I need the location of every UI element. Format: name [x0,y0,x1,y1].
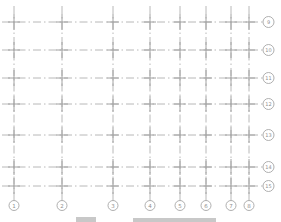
drawing-canvas: 123456789101112131415 [0,0,281,222]
axis-label-row: 15 [265,183,271,189]
axis-label-row: 14 [265,164,271,170]
axis-label-column: 5 [178,203,182,209]
axis-label-column: 8 [247,203,251,209]
axis-label-column: 3 [111,203,115,209]
axis-label-row: 13 [265,132,271,138]
drawing-svg: 123456789101112131415 [0,0,281,222]
axis-label-column: 7 [229,203,233,209]
axis-label-column: 2 [60,203,64,209]
caption-fragment [133,218,216,222]
axis-label-column: 6 [204,203,208,209]
axis-label-column: 1 [12,203,16,209]
axis-label-column: 4 [148,203,152,209]
axis-label-row: 9 [267,19,270,25]
axis-label-row: 11 [265,75,271,81]
caption-fragment [76,217,96,222]
axis-label-row: 12 [265,101,271,107]
axis-label-row: 10 [265,47,271,53]
